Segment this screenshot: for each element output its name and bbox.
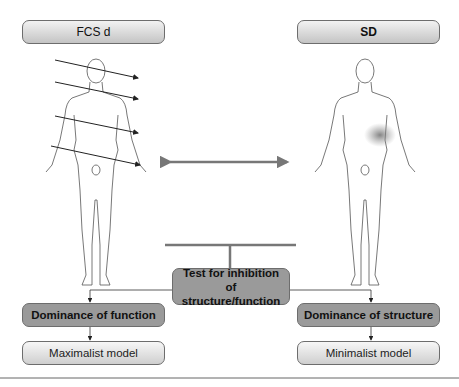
minimalist-model-box: Minimalist model bbox=[297, 341, 440, 365]
dominance-function-box: Dominance of function bbox=[22, 303, 165, 327]
right-panel-header: SD bbox=[297, 20, 440, 44]
left-panel-header: FCS d bbox=[22, 20, 165, 44]
test-inhibition-box: Test for inhibition of structure/functio… bbox=[172, 268, 290, 305]
diagram-lines bbox=[0, 0, 459, 387]
right-body-figure bbox=[315, 59, 415, 285]
maximalist-model-box: Maximalist model bbox=[22, 341, 165, 365]
left-body-figure bbox=[46, 59, 146, 285]
pain-region-shade bbox=[364, 123, 396, 147]
dominance-structure-box: Dominance of structure bbox=[297, 303, 440, 327]
